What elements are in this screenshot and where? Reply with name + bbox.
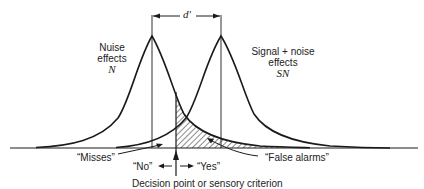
noise-symbol: N xyxy=(92,64,132,75)
misses-leader-arrowhead xyxy=(156,144,163,149)
no-arrowhead xyxy=(158,164,164,169)
noise-label-line1: Nuise xyxy=(92,42,132,53)
dprime-arrowhead-left xyxy=(153,14,160,19)
signal-noise-label: Signal + noise effects SN xyxy=(248,46,318,79)
no-response-label: “No” xyxy=(133,161,152,172)
false-alarm-hatch xyxy=(176,96,300,148)
noise-label: Nuise effects N xyxy=(92,42,132,75)
signal-symbol: SN xyxy=(248,68,318,79)
dprime-label: d' xyxy=(183,9,191,20)
criterion-caption: Decision point or sensory criterion xyxy=(132,178,283,189)
false-alarms-label: “False alarms” xyxy=(265,152,329,163)
signal-label-line1: Signal + noise xyxy=(248,46,318,57)
dprime-arrowhead-right xyxy=(213,14,220,19)
yes-arrowhead xyxy=(188,164,194,169)
misses-label: “Misses” xyxy=(77,152,115,163)
criterion-arrowhead xyxy=(173,150,179,160)
yes-response-label: “Yes” xyxy=(197,161,220,172)
